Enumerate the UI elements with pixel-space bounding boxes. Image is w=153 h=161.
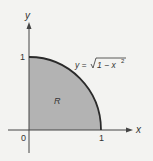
curve-equation: y = 1 − x 2: [74, 58, 126, 70]
x-axis-arrow-icon: [126, 128, 133, 133]
origin-label: 0: [21, 133, 26, 143]
y-axis-label: y: [24, 10, 31, 21]
diagram: y x 0 1 1 R y = 1 − x 2: [0, 0, 153, 161]
equation-lhs: y =: [74, 60, 87, 70]
region-r: [29, 57, 101, 130]
y-axis-arrow-icon: [27, 22, 32, 29]
y-tick-label: 1: [20, 52, 25, 62]
quarter-circle-figure: y x 0 1 1 R y = 1 − x 2: [0, 0, 153, 161]
x-tick-label: 1: [99, 133, 104, 143]
equation-exponent: 2: [121, 58, 125, 64]
x-axis-label: x: [135, 124, 142, 135]
region-label: R: [54, 96, 61, 106]
equation-radicand: 1 − x: [97, 60, 116, 70]
